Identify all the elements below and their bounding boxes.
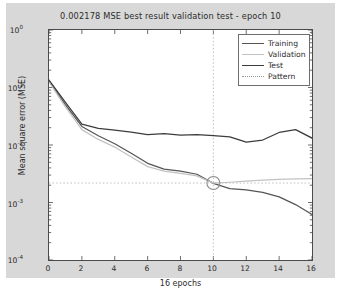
xtick-label-0: 0 bbox=[38, 264, 58, 273]
xtick-label-10: 10 bbox=[202, 264, 222, 273]
series-lines bbox=[49, 80, 312, 214]
legend-item-test[interactable]: Test bbox=[239, 60, 309, 71]
ytick-label-1e-4: 10-4 bbox=[0, 256, 23, 265]
xtick-label-16: 16 bbox=[301, 264, 321, 273]
y-axis-label: Mean square error (MSE) bbox=[18, 41, 27, 211]
ytick-label-1e0: 100 bbox=[0, 26, 23, 35]
ytick-exponent: 0 bbox=[19, 24, 23, 30]
legend-label-validation: Validation bbox=[268, 50, 306, 59]
chart-title: 0.002178 MSE best result validation test… bbox=[6, 11, 335, 21]
legend-label-test: Test bbox=[268, 61, 283, 70]
legend-item-training[interactable]: Training bbox=[239, 38, 309, 49]
x-axis-label: 16 epochs bbox=[48, 279, 313, 288]
chart-legend[interactable]: Training Validation Test Pattern bbox=[238, 34, 310, 86]
legend-line-icon-pattern bbox=[242, 73, 264, 81]
xtick-label-14: 14 bbox=[268, 264, 288, 273]
legend-line-icon-training bbox=[242, 40, 264, 48]
figure-panel: 0.002178 MSE best result validation test… bbox=[6, 3, 335, 278]
legend-label-pattern: Pattern bbox=[268, 72, 295, 81]
legend-item-validation[interactable]: Validation bbox=[239, 49, 309, 60]
xtick-label-2: 2 bbox=[71, 264, 91, 273]
legend-line-icon-validation bbox=[242, 51, 264, 59]
xtick-label-6: 6 bbox=[137, 264, 157, 273]
legend-line-icon-test bbox=[242, 62, 264, 70]
legend-label-training: Training bbox=[268, 39, 298, 48]
xtick-label-8: 8 bbox=[170, 264, 190, 273]
legend-item-pattern[interactable]: Pattern bbox=[239, 71, 309, 82]
ytick-exponent: -4 bbox=[17, 254, 23, 260]
xtick-label-12: 12 bbox=[235, 264, 255, 273]
xtick-label-4: 4 bbox=[104, 264, 124, 273]
